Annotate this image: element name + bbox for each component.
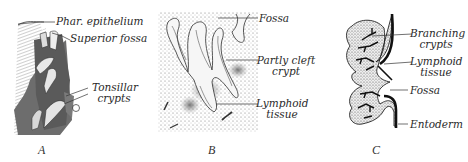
label-branching-crypts-line2: crypts: [410, 39, 462, 50]
panel-letter-c: C: [372, 143, 380, 158]
label-partly-cleft-crypt-line2: crypt: [256, 66, 316, 77]
panel-c: Branching crypts Lymphoid tissue Fossa E…: [310, 0, 468, 162]
label-lymphoid-tissue-b-line2: tissue: [256, 109, 308, 120]
label-entoderm: Entoderm: [410, 119, 463, 130]
label-superior-fossa: Superior fossa: [70, 33, 147, 44]
label-lymphoid-tissue-c-line2: tissue: [410, 67, 462, 78]
label-fossa-b: Fossa: [259, 13, 289, 24]
panel-letter-a: A: [38, 143, 45, 158]
label-fossa-c: Fossa: [410, 85, 440, 96]
panel-letter-b: B: [208, 143, 215, 158]
label-phar-epithelium: Phar. epithelium: [56, 16, 144, 27]
panel-b: Fossa Partly cleft crypt Lymphoid tissue…: [150, 0, 310, 162]
label-tonsillar-crypts-line2: crypts: [92, 93, 136, 104]
panel-a: Phar. epithelium Superior fossa Tonsilla…: [0, 0, 150, 162]
